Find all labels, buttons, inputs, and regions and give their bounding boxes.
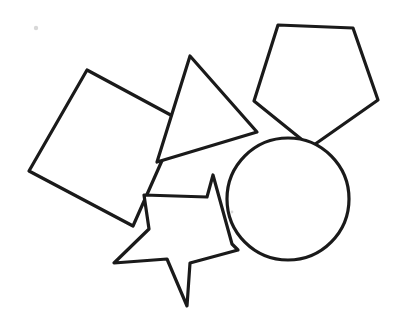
- paper-speck: [34, 26, 38, 30]
- drawing-canvas: SquareTrianglePentagonCircleStar: [0, 0, 405, 327]
- shapes-svg: SquareTrianglePentagonCircleStar: [0, 0, 405, 327]
- shape-circle: Circle: [227, 138, 349, 260]
- stroke-gap-speck: [231, 211, 234, 214]
